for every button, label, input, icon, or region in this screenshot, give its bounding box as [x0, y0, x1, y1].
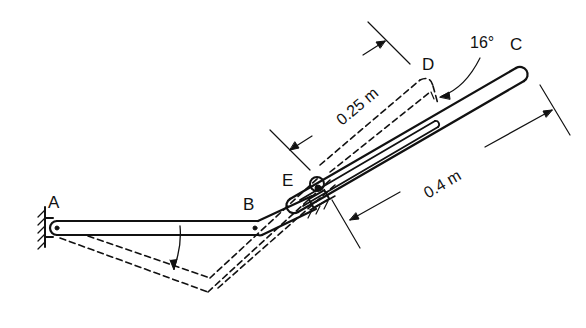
label-a: A — [48, 193, 60, 212]
dimension-0-4m — [332, 85, 570, 248]
link-ab — [50, 221, 258, 235]
label-c: C — [510, 35, 522, 54]
mechanism-diagram: A B C D E 16° 0.25 m 0.4 m — [0, 0, 586, 328]
label-b: B — [243, 195, 254, 214]
rotation-arrow — [170, 226, 180, 270]
dimension-label-0-4m: 0.4 m — [421, 167, 464, 202]
label-e: E — [282, 171, 293, 190]
angle-label: 16° — [470, 34, 494, 51]
dimension-label-0-25m: 0.25 m — [333, 84, 381, 128]
displaced-position-dashed — [60, 78, 438, 292]
label-d: D — [422, 55, 434, 74]
